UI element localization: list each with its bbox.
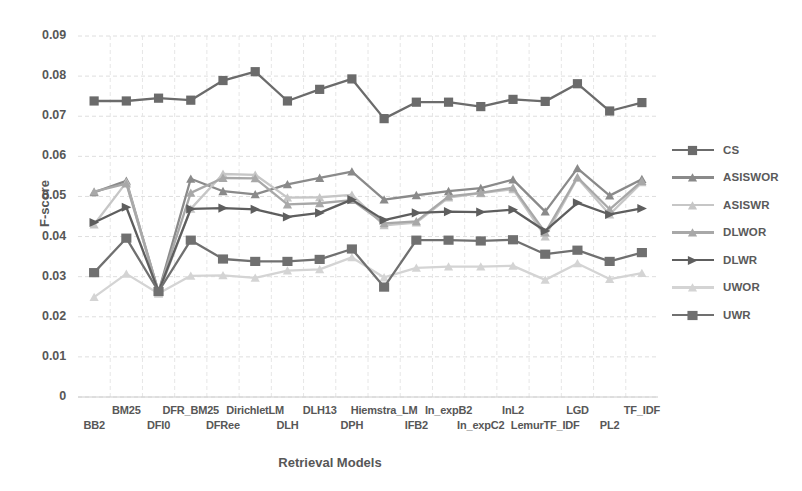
legend-swatch: [672, 225, 714, 239]
data-point-marker: [508, 235, 518, 244]
data-point-marker: [121, 234, 131, 243]
data-point-marker: [508, 95, 517, 104]
legend-swatch: [672, 198, 714, 212]
legend-item-cs[interactable]: CS: [672, 136, 802, 164]
x-tick-label: In_expC2: [457, 419, 504, 431]
legend-item-uwor[interactable]: UWOR: [672, 274, 802, 302]
data-point-marker: [637, 248, 647, 257]
chart-container: F-score Retrieval Models 00.010.020.030.…: [0, 0, 802, 491]
legend-item-asiswor[interactable]: ASISWOR: [672, 164, 802, 192]
data-point-marker: [476, 207, 486, 216]
x-axis-title: Retrieval Models: [0, 455, 660, 470]
data-point-marker: [688, 201, 697, 209]
y-tick-label: 0.05: [20, 188, 66, 202]
legend-marker-triangle-icon: [687, 200, 698, 211]
legend-label: CS: [723, 144, 739, 156]
x-tick-label: Hiemstra_LM: [351, 404, 418, 416]
legend-label: UWOR: [723, 281, 760, 293]
data-point-marker: [573, 198, 583, 207]
data-point-marker: [687, 311, 697, 320]
x-tick-label: DirichletLM: [226, 404, 284, 416]
data-point-marker: [688, 228, 697, 236]
data-point-marker: [379, 282, 389, 291]
data-point-marker: [218, 254, 228, 263]
legend-marker-square-icon: [687, 145, 698, 156]
data-point-marker: [412, 208, 422, 217]
data-point-marker: [412, 98, 421, 107]
data-point-marker: [380, 114, 389, 123]
legend-item-uwr[interactable]: UWR: [672, 301, 802, 329]
data-point-marker: [89, 268, 99, 277]
data-point-marker: [444, 207, 454, 216]
legend-swatch: [672, 308, 714, 322]
data-point-marker: [154, 94, 163, 103]
y-tick-label: 0.01: [20, 349, 66, 363]
y-tick-label: 0: [20, 389, 66, 403]
x-tick-label: In_expB2: [425, 404, 472, 416]
data-point-marker: [573, 79, 582, 88]
legend-marker-triangle-icon: [687, 172, 698, 183]
data-point-marker: [283, 96, 292, 105]
data-point-marker: [572, 246, 582, 255]
data-point-marker: [283, 212, 293, 221]
data-point-marker: [637, 204, 647, 213]
data-point-marker: [688, 146, 697, 155]
data-point-marker: [444, 98, 453, 107]
x-tick-label: IFB2: [405, 419, 428, 431]
data-point-marker: [605, 106, 614, 115]
legend-swatch: [672, 280, 714, 294]
legend-marker-bowtie-icon: [687, 310, 698, 321]
y-tick-label: 0.04: [20, 229, 66, 243]
data-point-marker: [251, 67, 260, 76]
x-tick-label: BB2: [83, 419, 104, 431]
data-point-marker: [443, 236, 453, 245]
y-tick-label: 0.09: [20, 28, 66, 42]
x-tick-label: TF_IDF: [624, 404, 660, 416]
legend-label: ASISWR: [723, 199, 770, 211]
x-tick-label: InL2: [502, 404, 524, 416]
data-point-marker: [476, 102, 485, 111]
data-point-marker: [251, 205, 261, 214]
data-point-marker: [605, 257, 615, 266]
data-point-marker: [688, 173, 697, 181]
data-point-marker: [122, 269, 131, 277]
x-tick-label: LemurTF_IDF: [511, 419, 580, 431]
legend-item-dlwr[interactable]: DLWR: [672, 246, 802, 274]
legend-label: DLWR: [723, 254, 757, 266]
legend-marker-triangle-icon: [687, 227, 698, 238]
data-point-marker: [637, 98, 646, 107]
y-tick-label: 0.06: [20, 148, 66, 162]
legend-marker-arrow-icon: [687, 255, 698, 266]
legend-label: ASISWOR: [723, 171, 779, 183]
x-tick-label: PL2: [600, 419, 620, 431]
data-point-marker: [315, 85, 324, 94]
data-point-marker: [186, 174, 195, 182]
data-point-marker: [476, 236, 486, 245]
x-tick-label: DFR_BM25: [163, 404, 219, 416]
gridlines: [78, 36, 658, 397]
data-point-marker: [573, 164, 582, 172]
data-point-marker: [347, 244, 357, 253]
data-point-marker: [186, 96, 195, 105]
data-point-marker: [218, 76, 227, 85]
y-tick-label: 0.07: [20, 108, 66, 122]
legend-swatch: [672, 143, 714, 157]
x-tick-label: DLH13: [303, 404, 337, 416]
data-point-marker: [541, 97, 550, 106]
data-point-marker: [218, 203, 228, 212]
data-point-marker: [90, 96, 99, 105]
legend-label: DLWOR: [723, 226, 766, 238]
data-point-marker: [688, 283, 697, 291]
x-tick-label: DFI0: [147, 419, 170, 431]
legend-item-asiswr[interactable]: ASISWR: [672, 191, 802, 219]
data-point-marker: [250, 257, 260, 266]
data-point-marker: [153, 287, 163, 296]
x-tick-label: LGD: [566, 404, 589, 416]
y-tick-label: 0.03: [20, 269, 66, 283]
x-tick-label: DLH: [276, 419, 298, 431]
data-point-marker: [573, 259, 582, 267]
data-point-marker: [411, 236, 421, 245]
legend-item-dlwor[interactable]: DLWOR: [672, 219, 802, 247]
data-point-marker: [688, 256, 698, 265]
legend-swatch: [672, 253, 714, 267]
